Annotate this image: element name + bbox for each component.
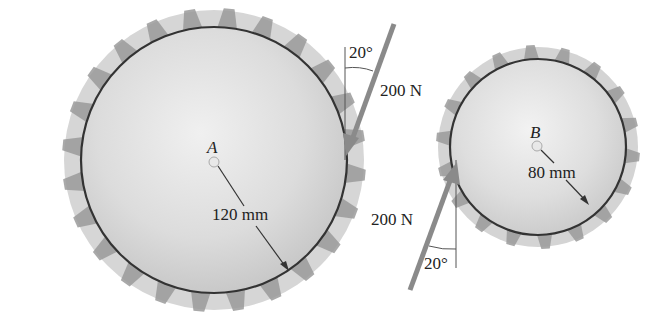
force-label-top: 200 N xyxy=(380,81,422,100)
gear-b-center-point xyxy=(532,141,542,151)
gear-a: A 120 mm xyxy=(62,8,366,312)
gear-b-radius-label: 80 mm xyxy=(528,163,576,182)
gear-b-label: B xyxy=(530,123,541,142)
angle-arc-bottom xyxy=(429,246,456,249)
force-on-gear-b: 200 N 20° xyxy=(371,160,460,290)
gear-b: B 80 mm xyxy=(436,45,640,249)
gear-a-center-point xyxy=(209,157,219,167)
force-arrow-bottom-shaft xyxy=(410,178,451,290)
angle-arc-top xyxy=(345,67,373,71)
force-on-gear-a: 20° 200 N xyxy=(343,24,422,160)
angle-label-bottom: 20° xyxy=(424,254,448,273)
gear-a-radius-label: 120 mm xyxy=(212,205,268,224)
gear-diagram: A 120 mm B 80 mm 20° 200 N 200 N 20° xyxy=(0,0,646,324)
force-label-bottom: 200 N xyxy=(371,210,413,229)
angle-label-top: 20° xyxy=(349,43,373,62)
gear-a-label: A xyxy=(206,138,218,157)
